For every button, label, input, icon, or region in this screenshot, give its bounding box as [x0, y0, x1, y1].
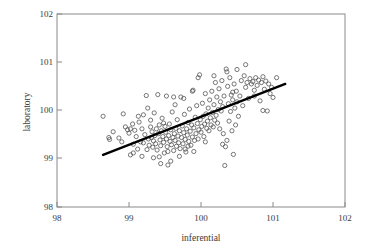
data-point [220, 78, 224, 82]
data-point [257, 78, 261, 82]
data-point [215, 121, 219, 125]
data-point [194, 132, 198, 136]
data-point [160, 116, 164, 120]
data-point [195, 121, 199, 125]
data-point [265, 109, 269, 113]
data-point [221, 142, 225, 146]
data-point [200, 124, 204, 128]
data-point [154, 127, 158, 131]
data-point [261, 75, 265, 79]
data-point [117, 136, 121, 140]
data-point [143, 133, 147, 137]
y-tick-label-99: 99 [44, 153, 54, 163]
data-point [141, 113, 145, 117]
data-point [165, 145, 169, 149]
data-point [146, 106, 150, 110]
data-point [203, 92, 207, 96]
data-point [212, 74, 216, 78]
data-point [177, 141, 181, 145]
data-point [152, 111, 156, 115]
data-point [185, 133, 189, 137]
data-point [208, 98, 212, 102]
data-point [208, 116, 212, 120]
data-point [164, 94, 168, 98]
data-point [151, 139, 155, 143]
data-point [196, 137, 200, 141]
x-axis-ticks [57, 202, 345, 207]
data-point [252, 88, 256, 92]
data-point [182, 112, 186, 116]
data-point [239, 78, 243, 82]
data-point [213, 80, 217, 84]
data-point [184, 150, 188, 154]
data-point [157, 155, 161, 159]
data-point [131, 122, 135, 126]
data-point [271, 95, 275, 99]
data-point [244, 85, 248, 89]
data-point [206, 106, 210, 110]
data-point [149, 125, 153, 129]
data-point [137, 120, 141, 124]
regression-line [103, 84, 285, 155]
data-point [226, 84, 230, 88]
data-point [228, 109, 232, 113]
data-point [172, 95, 176, 99]
data-point [218, 127, 222, 131]
data-point [177, 129, 181, 133]
data-point [183, 147, 187, 151]
data-point [210, 89, 214, 93]
x-tick-label-100: 100 [194, 213, 208, 223]
data-point [128, 127, 132, 131]
data-point [231, 98, 235, 102]
data-point [225, 70, 229, 74]
data-point [261, 108, 265, 112]
scatter-plot-figure: 102 101 100 99 98 98 99 100 101 102 infe… [0, 0, 370, 251]
data-point [123, 125, 127, 129]
data-point [202, 134, 206, 138]
data-point [192, 149, 196, 153]
data-point [233, 123, 237, 127]
data-point [188, 129, 192, 133]
data-point [170, 110, 174, 114]
y-tick-label-102: 102 [40, 9, 54, 19]
data-point [140, 154, 144, 158]
data-point [230, 129, 234, 133]
data-point [166, 163, 170, 167]
data-point [159, 161, 163, 165]
data-point [154, 142, 158, 146]
data-point [187, 107, 191, 111]
data-point [133, 128, 137, 132]
data-point [155, 148, 159, 152]
data-point [212, 103, 216, 107]
data-point [223, 163, 227, 167]
data-point [120, 140, 124, 144]
data-point [255, 83, 259, 87]
data-point [136, 147, 140, 151]
x-tick-label-98: 98 [53, 213, 63, 223]
data-point [223, 145, 227, 149]
data-point [224, 67, 228, 71]
data-point [173, 103, 177, 107]
data-point [242, 74, 246, 78]
data-point [268, 92, 272, 96]
data-point [203, 140, 207, 144]
data-point [145, 147, 149, 151]
data-point [121, 112, 125, 116]
data-point [215, 95, 219, 99]
data-point [150, 130, 154, 134]
data-point [238, 94, 242, 98]
data-point [228, 76, 232, 80]
data-point [144, 93, 148, 97]
data-point [232, 82, 236, 86]
data-point [187, 139, 191, 143]
data-point [156, 92, 160, 96]
data-point [227, 119, 231, 123]
data-point [172, 148, 176, 152]
plot-canvas: 102 101 100 99 98 98 99 100 101 102 infe… [0, 0, 370, 251]
data-point [275, 76, 279, 80]
data-point [111, 130, 115, 134]
data-point [134, 134, 138, 138]
x-tick-label-101: 101 [266, 213, 280, 223]
data-point [140, 127, 144, 131]
plot-frame [57, 14, 345, 207]
